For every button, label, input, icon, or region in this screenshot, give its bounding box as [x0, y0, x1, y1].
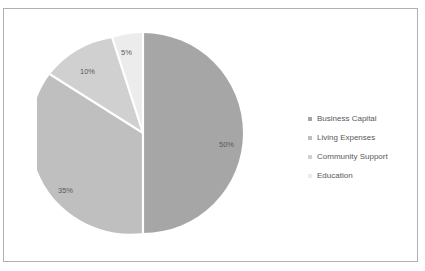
pie-chart-plot-area: 50% 35% 10% 5% Business Capital Living E…	[4, 9, 417, 261]
legend-item-community-support[interactable]: Community Support	[308, 147, 418, 166]
legend-swatch-icon	[308, 136, 312, 140]
pie-slice-business-capital[interactable]	[143, 33, 243, 233]
pie-data-label-community-support: 10%	[80, 67, 95, 76]
pie-chart-graphic	[37, 27, 249, 239]
legend-swatch-icon	[308, 174, 312, 178]
legend-item-label: Living Expenses	[317, 133, 375, 142]
pie-data-label-living-expenses: 35%	[58, 186, 73, 195]
legend-item-label: Business Capital	[317, 114, 377, 123]
pie-data-label-education: 5%	[121, 48, 132, 57]
legend-item-label: Education	[317, 171, 353, 180]
legend-swatch-icon	[308, 117, 312, 121]
legend-item-education[interactable]: Education	[308, 166, 418, 185]
chart-frame: 50% 35% 10% 5% Business Capital Living E…	[3, 8, 418, 262]
legend-swatch-icon	[308, 155, 312, 159]
legend-item-living-expenses[interactable]: Living Expenses	[308, 128, 418, 147]
chart-legend: Business Capital Living Expenses Communi…	[308, 109, 418, 185]
legend-item-business-capital[interactable]: Business Capital	[308, 109, 418, 128]
pie-data-label-business-capital: 50%	[219, 140, 234, 149]
legend-item-label: Community Support	[317, 152, 388, 161]
